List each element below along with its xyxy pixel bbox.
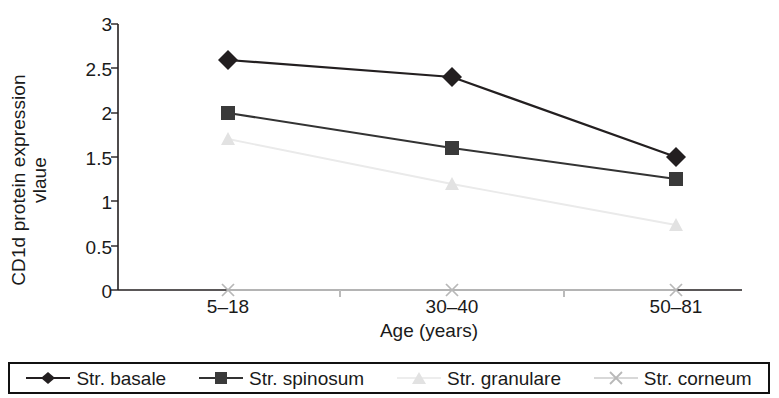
triangle-marker-icon: [397, 370, 441, 386]
chart-figure: CD1d protein expression vlaue 0 0.5 1 1.…: [0, 0, 779, 398]
legend-item-str-basale[interactable]: Str. basale: [26, 369, 166, 388]
legend-label-str-corneum: Str. corneum: [644, 369, 752, 388]
square-marker-icon: [199, 370, 243, 386]
legend-item-str-granulare[interactable]: Str. granulare: [397, 369, 561, 388]
legend-item-str-spinosum[interactable]: Str. spinosum: [199, 369, 364, 388]
legend-item-str-corneum[interactable]: Str. corneum: [594, 369, 752, 388]
plot-area: [0, 0, 779, 340]
chart-legend: Str. basale Str. spinosum Str. granulare: [8, 362, 770, 394]
legend-label-str-spinosum: Str. spinosum: [249, 369, 364, 388]
cross-marker-icon: [594, 370, 638, 386]
legend-label-str-basale: Str. basale: [76, 369, 166, 388]
square-marker: [221, 106, 683, 186]
legend-label-str-granulare: Str. granulare: [447, 369, 561, 388]
series-str-corneum: [222, 284, 682, 296]
diamond-marker-icon: [26, 370, 70, 386]
y-axis-ticks: [111, 24, 118, 290]
series-str-spinosum: [221, 106, 683, 186]
